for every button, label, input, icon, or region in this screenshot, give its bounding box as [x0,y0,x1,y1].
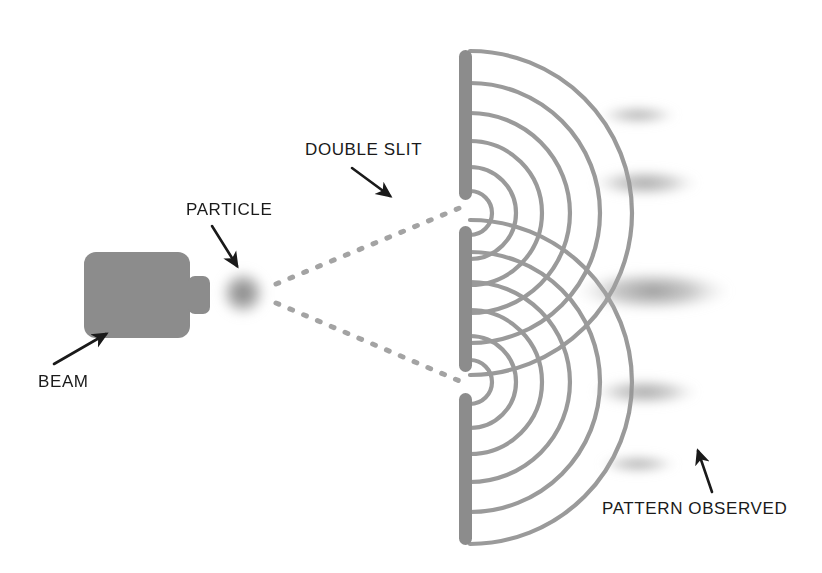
trajectory-lower [276,303,462,382]
interference-pattern [575,104,731,475]
double-slit-arrow-icon [352,168,390,196]
barrier-segment-top [459,50,472,200]
diagram-canvas: BEAM PARTICLE DOUBLE SLIT PATTERN OBSERV… [0,0,822,573]
fringe-band-2 [591,168,699,198]
trajectory-lines [276,207,462,382]
label-beam: BEAM [38,372,89,392]
beam-emitter-nozzle [188,276,210,314]
double-slit-diagram [0,0,822,573]
double-slit-barrier [459,50,472,545]
label-pattern-observed: PATTERN OBSERVED [602,499,787,519]
particle-arrow-icon [212,226,237,266]
barrier-segment-bottom [459,393,472,545]
label-double-slit: DOUBLE SLIT [305,140,422,160]
trajectory-upper [276,207,462,284]
fringe-band-1 [598,104,678,126]
fringe-band-5 [598,453,678,475]
label-particle: PARTICLE [186,200,272,220]
barrier-segment-middle [459,226,472,372]
fringe-band-3 [575,269,731,313]
beam-emitter-body [84,252,190,338]
pattern-arrow-icon [698,451,712,492]
particle-blob [218,268,268,318]
beam-emitter-group [84,252,210,338]
fringe-band-4 [591,377,699,407]
beam-arrow-icon [54,334,106,364]
